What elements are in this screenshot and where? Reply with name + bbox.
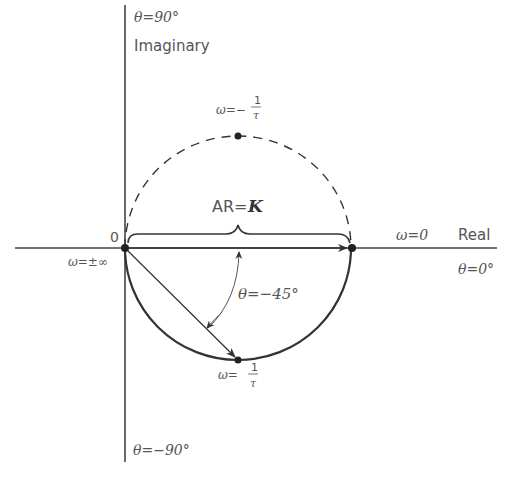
svg-text:ω=−: ω=− [216,103,246,117]
real-intercept-point [348,244,356,252]
imaginary-axis-label: Imaginary [134,37,210,55]
svg-text:1: 1 [251,361,258,374]
angle-arc-start [207,312,222,328]
bottom-angle-label: θ=−90° [133,442,190,458]
origin-point [121,244,129,252]
upper-semicircle-dashed [125,136,351,248]
omega-inverse-tau-label: ω= 1 τ [218,361,258,390]
angle-arc [208,252,239,328]
top-angle-label: θ=90° [134,9,179,25]
real-axis-label: Real [458,226,490,244]
omega-infinity-label: ω=±∞ [68,255,108,269]
ar-brace [128,225,350,243]
svg-text:1: 1 [254,94,261,107]
omega-neg-inverse-tau-label: ω=− 1 τ [216,94,261,122]
polar-plot: θ=90° Imaginary θ=−90° Real θ=0° 0 ω=±∞ … [0,0,514,480]
svg-text:ω=: ω= [218,368,238,382]
omega-zero-label: ω=0 [396,227,428,243]
bottom-point [235,357,242,364]
phase-angle-label: θ=−45° [238,285,299,303]
svg-text:AR=: AR= [212,197,247,216]
top-point [235,133,242,140]
svg-text:τ: τ [253,109,260,122]
phase-vector-arrow [125,248,235,357]
amplitude-ratio-label: AR= K [212,196,264,216]
right-angle-label: θ=0° [458,261,494,277]
svg-text:τ: τ [250,377,257,390]
svg-text:K: K [247,196,264,216]
origin-label: 0 [110,229,119,245]
